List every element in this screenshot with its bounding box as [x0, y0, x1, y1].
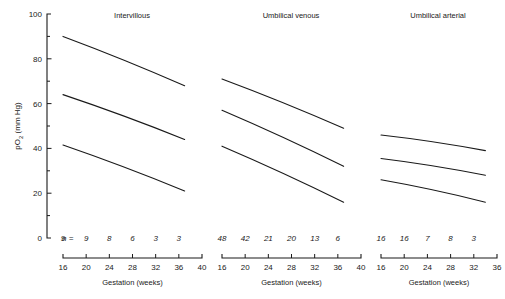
- series-line-upper: [381, 135, 485, 151]
- n-value-label: 6: [130, 234, 135, 243]
- x-axis-tick-label: 32: [469, 263, 478, 272]
- series-line-lower: [63, 145, 185, 191]
- n-value-label: 3: [472, 234, 477, 243]
- x-axis-tick-label: 36: [493, 263, 502, 272]
- series-line-upper: [222, 79, 344, 128]
- panel-title-2: Umbilical venous: [263, 11, 320, 20]
- x-axis-tick-label: 20: [241, 263, 250, 272]
- x-axis-line-3: [381, 254, 497, 258]
- series-line-lower: [381, 180, 485, 202]
- x-axis-tick-label: 28: [128, 263, 137, 272]
- series-line-middle: [63, 95, 185, 140]
- x-axis-tick-label: 40: [198, 263, 207, 272]
- x-axis-tick-label: 24: [423, 263, 432, 272]
- n-value-label: 8: [448, 234, 453, 243]
- n-value-label: 6: [336, 234, 341, 243]
- x-axis-tick-label: 24: [105, 263, 114, 272]
- series-line-middle: [222, 110, 344, 166]
- x-axis-tick-label: 16: [218, 263, 227, 272]
- y-axis-tick-label: 60: [33, 100, 42, 109]
- n-value-label: 13: [310, 234, 319, 243]
- y-axis-tick-label: 80: [33, 55, 42, 64]
- x-axis-tick-label: 28: [446, 263, 455, 272]
- x-axis-tick-label: 24: [264, 263, 273, 272]
- x-axis-tick-label: 40: [357, 263, 366, 272]
- x-axis-title-3: Gestation (weeks): [409, 278, 470, 287]
- y-axis-tick-label: 0: [38, 234, 43, 243]
- x-axis-tick-label: 36: [333, 263, 342, 272]
- x-axis-tick-label: 32: [310, 263, 319, 272]
- x-axis-tick-label: 36: [174, 263, 183, 272]
- chart-figure: 020406080100pO2 (mm Hg)n =Intervillous16…: [0, 0, 505, 299]
- y-axis-tick-label: 100: [29, 10, 43, 19]
- n-value-label: 16: [377, 234, 386, 243]
- n-value-label: 9: [61, 234, 66, 243]
- n-value-label: 42: [241, 234, 250, 243]
- n-value-label: 3: [153, 234, 158, 243]
- y-axis-tick-label: 40: [33, 144, 42, 153]
- x-axis-title-1: Gestation (weeks): [102, 278, 163, 287]
- chart-canvas: 020406080100pO2 (mm Hg)n =Intervillous16…: [0, 0, 505, 299]
- x-axis-tick-label: 16: [59, 263, 68, 272]
- n-value-label: 3: [177, 234, 182, 243]
- panel-title-1: Intervillous: [114, 11, 150, 20]
- x-axis-tick-label: 20: [400, 263, 409, 272]
- y-axis-title: pO2 (mm Hg): [13, 102, 24, 150]
- n-value-label: 16: [400, 234, 409, 243]
- n-value-label: 21: [263, 234, 273, 243]
- n-value-label: 7: [425, 234, 430, 243]
- y-axis-title-text: pO2 (mm Hg): [13, 102, 24, 150]
- x-axis-tick-label: 32: [151, 263, 160, 272]
- n-value-label: 48: [218, 234, 227, 243]
- series-line-middle: [381, 158, 485, 175]
- x-axis-title-2: Gestation (weeks): [261, 278, 322, 287]
- x-axis-tick-label: 28: [287, 263, 296, 272]
- x-axis-tick-label: 16: [377, 263, 386, 272]
- series-line-upper: [63, 36, 185, 85]
- n-value-label: 20: [286, 234, 296, 243]
- n-value-label: 8: [107, 234, 112, 243]
- panel-title-3: Umbilical arterial: [410, 11, 466, 20]
- n-value-label: 9: [84, 234, 89, 243]
- y-axis-tick-label: 20: [33, 189, 42, 198]
- series-line-lower: [222, 146, 344, 202]
- x-axis-tick-label: 20: [82, 263, 91, 272]
